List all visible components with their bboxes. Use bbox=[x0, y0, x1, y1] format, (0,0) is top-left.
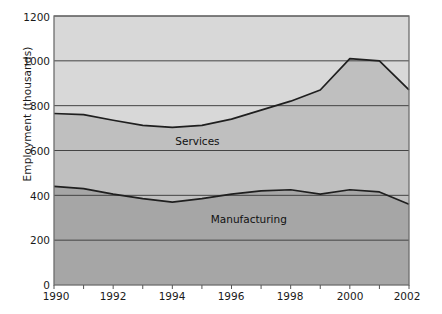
x-tick-1998: 1998 bbox=[277, 290, 304, 302]
manufacturing-area bbox=[54, 186, 409, 285]
employment-area-chart: Employment (thousands) 1200 1000 800 600… bbox=[0, 0, 442, 314]
series-label-services: Services bbox=[175, 135, 219, 147]
x-tick-1992: 1992 bbox=[100, 290, 127, 302]
x-tick-1996: 1996 bbox=[218, 290, 245, 302]
plot-area bbox=[0, 0, 442, 314]
x-tick-1990: 1990 bbox=[43, 290, 70, 302]
series-label-manufacturing: Manufacturing bbox=[211, 213, 287, 225]
x-tick-2000: 2000 bbox=[337, 290, 364, 302]
x-tick-1994: 1994 bbox=[159, 290, 186, 302]
x-tick-2002: 2002 bbox=[394, 290, 421, 302]
